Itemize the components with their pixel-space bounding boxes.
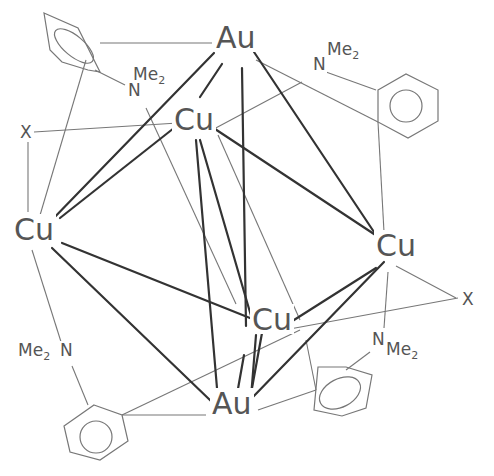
atom-cu-label: Cu bbox=[14, 212, 54, 247]
metal-bond bbox=[196, 140, 218, 400]
ring-top-left bbox=[44, 13, 100, 72]
metal-bond bbox=[200, 64, 222, 97]
thin-bond bbox=[326, 72, 376, 90]
benzene-ring bbox=[44, 13, 100, 72]
atom-au-label: Au bbox=[216, 20, 256, 55]
thin-bond bbox=[212, 82, 302, 130]
thin-bond bbox=[38, 60, 86, 222]
ring-top-right bbox=[378, 74, 438, 138]
benzene-ring bbox=[64, 405, 128, 460]
methyl-label: Me2 bbox=[133, 64, 165, 87]
halide-x-label: X bbox=[462, 289, 474, 309]
atom-cu-label: Cu bbox=[376, 228, 416, 263]
methyl-label: Me2 bbox=[386, 339, 418, 362]
metal-bond bbox=[60, 128, 174, 218]
metal-bond bbox=[254, 52, 378, 238]
thin-bond bbox=[32, 250, 62, 345]
metal-bond bbox=[212, 127, 380, 238]
metal-bond bbox=[47, 53, 214, 225]
thin-bond bbox=[306, 340, 316, 390]
benzene-ring bbox=[314, 367, 372, 416]
ring-bottom-right bbox=[314, 367, 372, 416]
thin-bond bbox=[378, 122, 384, 232]
ring-bottom-left bbox=[64, 405, 128, 460]
halide-x-label: X bbox=[20, 122, 32, 142]
atom-au-label: Au bbox=[212, 386, 252, 421]
aromatic-circle bbox=[390, 90, 422, 122]
methyl-label: Me2 bbox=[18, 340, 50, 363]
thin-bond bbox=[258, 390, 316, 410]
aromatic-circle bbox=[80, 421, 112, 453]
thin-bond bbox=[384, 272, 388, 328]
thin-bond bbox=[146, 108, 236, 304]
thin-bond bbox=[396, 266, 456, 298]
chemical-structure-diagram: AuCuCuCuCuAuXXNMe2NMe2NMe2NMe2 bbox=[0, 0, 494, 476]
metal-bond bbox=[200, 140, 254, 326]
thin-bond bbox=[72, 366, 88, 405]
thin-bond bbox=[268, 298, 458, 333]
nitrogen-label: N bbox=[313, 54, 326, 74]
aromatic-circle bbox=[314, 370, 366, 415]
benzene-ring bbox=[378, 74, 438, 138]
atom-cu-label: Cu bbox=[252, 302, 292, 337]
nitrogen-label: N bbox=[372, 329, 385, 349]
metal-bond bbox=[62, 243, 250, 318]
methyl-label: Me2 bbox=[327, 39, 359, 62]
aromatic-circle bbox=[49, 23, 99, 69]
nitrogen-label: N bbox=[60, 340, 73, 360]
atom-cu-label: Cu bbox=[174, 102, 214, 137]
thin-bond bbox=[346, 352, 370, 370]
